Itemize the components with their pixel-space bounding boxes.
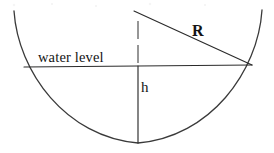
geometry-diagram: water level R h (0, 0, 274, 153)
water-level-label: water level (38, 49, 104, 66)
diagram-canvas (0, 0, 274, 153)
height-label: h (141, 79, 149, 96)
radius-label: R (192, 22, 204, 40)
